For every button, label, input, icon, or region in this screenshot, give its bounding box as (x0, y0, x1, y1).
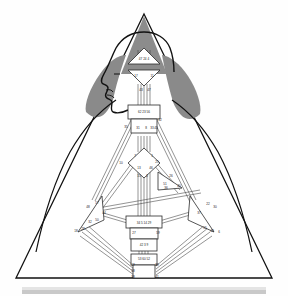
gate-label-g-19: 19 (131, 263, 135, 267)
gate-label-g-11: 11 (150, 74, 153, 78)
gate-label-g-18: 18 (74, 229, 78, 233)
gate-label-g-15: 15 (137, 174, 141, 178)
gate-label-g-50: 50 (95, 218, 99, 222)
gate-label-g-57: 57 (95, 201, 99, 205)
gate-label-g-27: 27 (132, 231, 136, 235)
gate-label-g-10: 10 (119, 161, 123, 165)
gate-label-g-2: 2 (146, 174, 148, 178)
gate-label-g-13: 13 (137, 166, 141, 170)
gate-label-g-8: 8 (145, 126, 147, 130)
gate-label-g-47-24-4: 47 24 4 (139, 57, 150, 61)
gate-label-g-49: 49 (210, 229, 214, 233)
gate-label-g-53-60-52: 53 60 52 (138, 257, 150, 261)
gate-label-g-40: 40 (177, 184, 181, 188)
gate-label-g-58: 58 (131, 269, 135, 273)
gate-label-g-41: 41 (155, 275, 159, 279)
gate-label-g-34-5-14-29: 34 5 14 29 (137, 221, 152, 225)
center-root-base (133, 265, 155, 278)
gate-label-g-48: 48 (86, 205, 90, 209)
gate-label-g-1: 1 (151, 154, 153, 158)
gate-label-g-22: 22 (206, 202, 210, 206)
gate-label-g-28: 28 (81, 227, 85, 231)
bodygraph-svg: 47 24 41711434762 23 5635124531833711013… (0, 0, 288, 296)
gate-label-g-32: 32 (88, 220, 92, 224)
gate-label-g-43: 43 (139, 88, 143, 92)
gate-label-g-55: 55 (203, 226, 207, 230)
gate-label-g-30: 30 (213, 205, 217, 209)
bottom-bar (22, 290, 266, 294)
gate-label-g-59: 59 (156, 231, 160, 235)
gate-label-g-36: 36 (164, 186, 168, 190)
gate-label-g-38: 38 (131, 275, 135, 279)
gate-label-g-33: 33 (150, 126, 154, 130)
gate-label-g-31: 31 (136, 126, 140, 130)
gate-label-g-26: 26 (169, 174, 173, 178)
gate-label-g-47b: 47 (147, 88, 151, 92)
gate-label-g-42-3-9: 42 3 9 (140, 243, 149, 247)
diagram-canvas: 47 24 41711434762 23 5635124531833711013… (0, 0, 288, 296)
gate-label-g-37: 37 (197, 211, 201, 215)
gate-label-g-6: 6 (218, 230, 220, 234)
gate-label-g-46: 46 (149, 166, 153, 170)
gate-label-g-7: 7 (134, 154, 136, 158)
gate-label-g-17: 17 (134, 74, 138, 78)
gate-label-g-62-23-56: 62 23 56 (138, 110, 150, 114)
gate-label-g-25: 25 (155, 160, 159, 164)
gate-label-g-44: 44 (102, 211, 106, 215)
gate-label-g-35: 35 (124, 125, 128, 129)
gate-label-g-39: 39 (155, 263, 159, 267)
gate-label-g-45: 45 (154, 126, 158, 130)
gate-label-g-12: 12 (158, 118, 162, 122)
